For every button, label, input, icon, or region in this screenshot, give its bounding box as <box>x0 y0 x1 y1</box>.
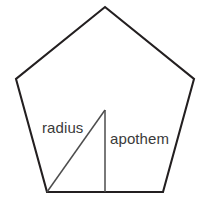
apothem-label: apothem <box>110 131 169 146</box>
radius-label: radius <box>42 120 83 135</box>
geometry-canvas <box>0 0 208 208</box>
pentagon-diagram: radius apothem <box>0 0 208 208</box>
